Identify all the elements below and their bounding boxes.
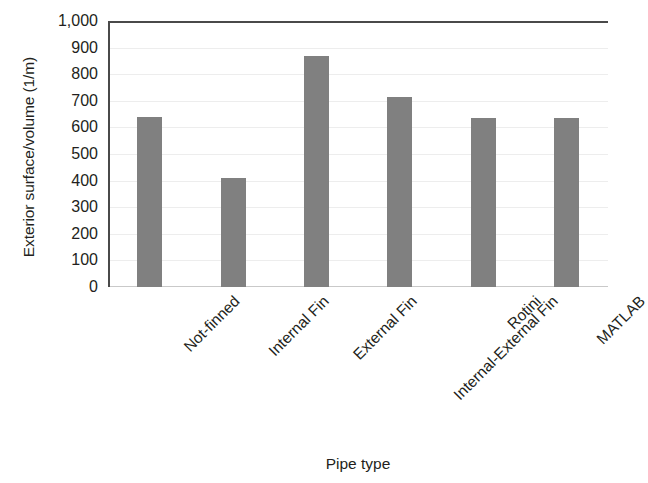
y-axis-tick-label: 200 [71, 226, 98, 242]
x-axis-tick-label-text: Not-finned [181, 293, 243, 355]
bar [221, 178, 246, 287]
x-axis-tick-label-text: External Fin [350, 293, 419, 362]
x-axis-tick-label: Internal Fin [266, 293, 332, 359]
y-axis-tick-label: 500 [71, 146, 98, 162]
y-axis-tick-label: 600 [71, 119, 98, 135]
y-axis-tick-label: 300 [71, 199, 98, 215]
x-axis-title: Pipe type [108, 455, 608, 473]
y-axis-tick-label: 0 [89, 279, 98, 295]
x-axis-tick-label: Not-finned [181, 293, 243, 355]
x-axis-tick-label: Internal-External Fin [451, 293, 561, 403]
bar [387, 97, 412, 287]
x-axis-tick-label: External Fin [350, 293, 419, 362]
x-axis-tick-label-text: Internal Fin [266, 293, 332, 359]
bar-series [108, 21, 608, 287]
x-axis-tick-label: MATLAB [594, 293, 648, 347]
x-axis-tick-label-text: Internal-External Fin [451, 293, 561, 403]
plot-area [108, 21, 608, 287]
y-axis-tick-label: 400 [71, 173, 98, 189]
bar [137, 117, 162, 287]
y-axis-tick-label: 100 [71, 252, 98, 268]
y-axis-tick-label: 900 [71, 40, 98, 56]
bar [304, 56, 329, 287]
plot-top-border [108, 21, 608, 23]
y-axis-tick-labels: 1,0009008007006005004003002001000 [30, 21, 102, 287]
bar [554, 118, 579, 287]
x-axis-category-labels: Not-finnedInternal FinExternal FinIntern… [108, 287, 608, 437]
y-axis-tick-label: 1,000 [58, 13, 98, 29]
y-axis-line [108, 21, 110, 287]
y-axis-tick-label: 800 [71, 66, 98, 82]
y-axis-tick-label: 700 [71, 93, 98, 109]
bar [471, 118, 496, 287]
x-axis-tick-label-text: MATLAB [594, 293, 648, 347]
